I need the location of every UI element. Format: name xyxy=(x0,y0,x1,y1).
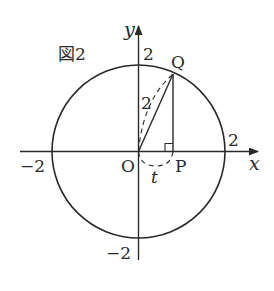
y-tick-neg: −2 xyxy=(106,243,131,263)
unit-circle-diagram: 図2 y x 2 −2 2 −2 O P Q 2 t xyxy=(0,0,274,291)
point-label-origin: O xyxy=(121,156,135,176)
x-tick-neg: −2 xyxy=(20,156,45,176)
arc-label-t: t xyxy=(151,167,158,187)
point-label-P: P xyxy=(175,156,186,176)
figure-title: 図2 xyxy=(58,44,86,64)
segment-label-OQ: 2 xyxy=(141,93,152,113)
right-angle-mark xyxy=(165,144,173,152)
y-tick-pos: 2 xyxy=(143,44,154,64)
point-label-Q: Q xyxy=(171,52,185,72)
x-tick-pos: 2 xyxy=(228,130,239,150)
dashed-arc-OP xyxy=(139,152,174,167)
x-axis-label: x xyxy=(249,152,260,174)
y-axis-label: y xyxy=(123,18,135,40)
